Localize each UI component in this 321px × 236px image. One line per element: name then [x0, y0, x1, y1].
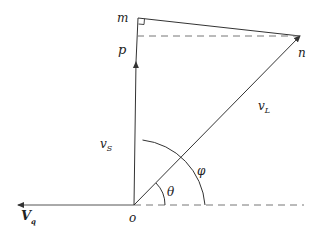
label-m: m	[117, 11, 128, 25]
label-n: n	[298, 46, 306, 60]
label-vq: Vq	[21, 208, 36, 226]
label-p: p	[118, 42, 127, 57]
label-phi: φ	[197, 164, 206, 178]
mn-segment	[138, 18, 300, 36]
label-theta: θ	[167, 185, 175, 199]
label-o: o	[129, 211, 136, 225]
vs-vector	[134, 62, 136, 205]
diagram-svg: m p n o vS vL Vq θ φ	[0, 0, 321, 236]
right-angle-marker	[139, 19, 145, 25]
pm-segment	[136, 18, 138, 62]
label-vl: vL	[258, 99, 270, 115]
label-vs: vS	[100, 137, 113, 153]
vector-diagram: m p n o vS vL Vq θ φ	[0, 0, 321, 236]
theta-arc	[156, 183, 165, 205]
vl-vector	[134, 36, 300, 205]
